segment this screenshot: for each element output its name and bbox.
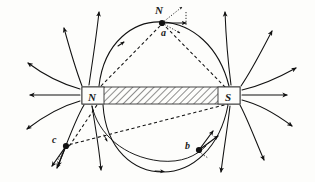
field-line-left-lower-shallow: [27, 101, 80, 129]
point-a-dot: [159, 20, 165, 26]
point-a-label: a: [161, 27, 166, 38]
compass-needle-a: N a: [154, 4, 186, 38]
field-line-left-upper-steep: [64, 28, 82, 86]
field-line-loop-lower: [103, 105, 228, 172]
dash-line-npole-to-a: [101, 26, 160, 86]
compass-a-north-label: N: [154, 4, 164, 16]
point-b-dot: [196, 147, 202, 153]
compass-needle-c: c: [52, 134, 69, 168]
magnetic-field-figure: N S N a b: [0, 0, 315, 182]
field-line-left-upper-shallow: [28, 63, 80, 89]
field-line-right-upper-steep: [241, 31, 272, 86]
compass-needle-b: b: [185, 131, 218, 158]
needle-a-guide-up: [162, 7, 182, 23]
field-line-right-lower-shallow: [242, 100, 292, 126]
field-line-right-lower-steep: [240, 105, 264, 160]
magnet-north-label: N: [87, 91, 97, 103]
field-line-left-upper-vertical: [89, 12, 99, 85]
field-diagram-svg: N S N a b: [0, 0, 315, 182]
dash-line-c-to-spole: [64, 104, 228, 146]
point-b-label: b: [185, 140, 190, 151]
point-c-label: c: [52, 134, 57, 145]
field-line-loop-lower-arrow: [155, 171, 164, 172]
bar-magnet: N S: [82, 87, 240, 104]
magnet-south-label: S: [225, 91, 231, 103]
point-c-dot: [63, 143, 69, 149]
field-line-loop-upper-arrow: [118, 42, 124, 46]
magnet-hatched-body: [82, 87, 240, 104]
